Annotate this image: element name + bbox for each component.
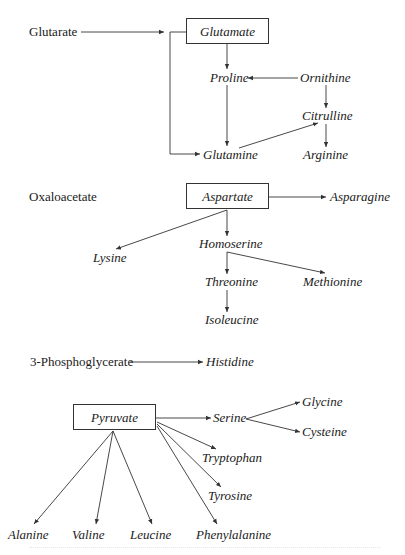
node-isoleucine: Isoleucine <box>205 312 258 328</box>
node-oxaloacetate: Oxaloacetate <box>29 189 97 205</box>
node-valine: Valine <box>72 527 105 543</box>
edge-pyruvate-alanine <box>34 431 113 524</box>
node-lysine: Lysine <box>93 250 127 266</box>
node-glutamate-box: Glutamate <box>186 18 269 44</box>
node-citrulline: Citrulline <box>302 108 353 124</box>
node-3-phosphoglycerate: 3-Phosphoglycerate <box>30 354 133 370</box>
node-leucine: Leucine <box>130 527 171 543</box>
node-tyrosine: Tyrosine <box>208 488 252 504</box>
edge-pyruvate-phenylalanine <box>157 426 217 524</box>
bleed-through-artifact <box>30 547 380 550</box>
node-phenylalanine: Phenylalanine <box>196 527 271 543</box>
node-threonine: Threonine <box>205 274 258 290</box>
node-ornithine: Ornithine <box>300 70 351 86</box>
node-aspartate-box: Aspartate <box>186 183 269 209</box>
node-tryptophan: Tryptophan <box>202 450 262 466</box>
node-homoserine: Homoserine <box>199 236 263 252</box>
node-glutamine: Glutamine <box>203 147 258 163</box>
node-alanine: Alanine <box>8 527 48 543</box>
amino-acid-biosynthesis-diagram: Glutarate Glutamate Proline Ornithine Ci… <box>0 0 405 555</box>
node-methionine: Methionine <box>303 274 362 290</box>
edge-serine-cysteine <box>246 419 300 432</box>
edge-pyruvate-leucine <box>113 431 152 524</box>
edge-glutamine-citrulline <box>239 123 318 148</box>
node-pyruvate-box: Pyruvate <box>73 404 156 430</box>
node-arginine: Arginine <box>303 147 348 163</box>
node-glutarate: Glutarate <box>29 24 77 40</box>
edge-pyruvate-valine <box>96 431 113 524</box>
edge-serine-glycine <box>246 402 300 419</box>
edge-glutamate-glutamine <box>170 32 200 154</box>
edge-pyruvate-tryptophan <box>157 422 216 449</box>
node-asparagine: Asparagine <box>330 189 390 205</box>
node-serine: Serine <box>213 410 246 426</box>
node-glycine: Glycine <box>302 394 342 410</box>
node-proline: Proline <box>210 70 249 86</box>
node-cysteine: Cysteine <box>302 424 347 440</box>
edge-homoserine-methionine <box>227 252 325 273</box>
node-histidine: Histidine <box>206 354 254 370</box>
